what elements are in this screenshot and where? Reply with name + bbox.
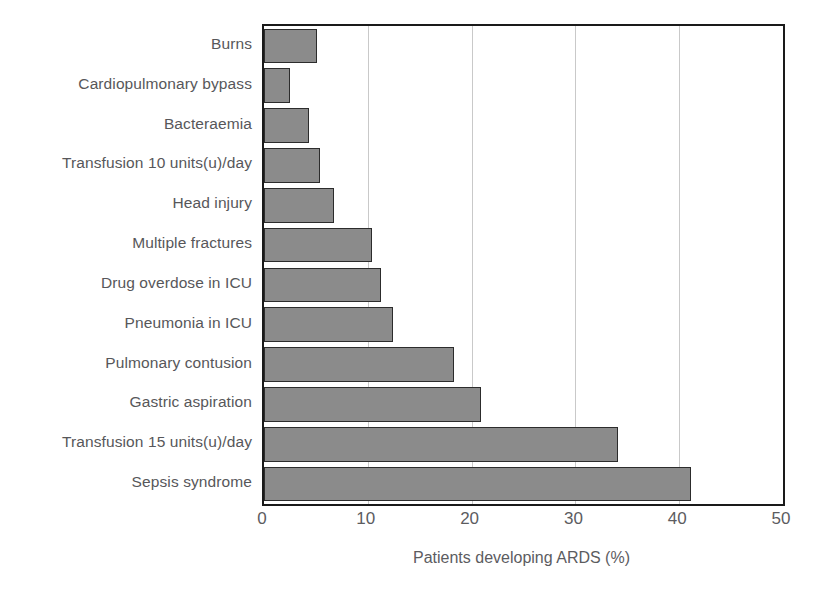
category-axis-labels: BurnsCardiopulmonary bypassBacteraemiaTr… — [0, 24, 252, 502]
bar-row — [264, 467, 783, 502]
category-label: Pneumonia in ICU — [0, 315, 252, 331]
bar — [264, 108, 309, 143]
bar — [264, 68, 290, 103]
bar — [264, 268, 381, 303]
bar — [264, 228, 372, 263]
x-tick-label-40: 40 — [668, 510, 687, 527]
bar-row — [264, 347, 783, 382]
bar — [264, 347, 454, 382]
bars-layer — [264, 26, 783, 504]
x-tick-label-0: 0 — [257, 510, 266, 527]
bar-row — [264, 188, 783, 223]
category-label: Cardiopulmonary bypass — [0, 76, 252, 92]
bar — [264, 427, 618, 462]
category-label: Burns — [0, 36, 252, 52]
x-axis-tick-labels: 01020304050 — [262, 502, 781, 542]
bar — [264, 188, 334, 223]
category-label: Transfusion 10 units(u)/day — [0, 155, 252, 171]
bar — [264, 29, 317, 64]
bar-row — [264, 268, 783, 303]
category-label: Drug overdose in ICU — [0, 275, 252, 291]
category-label: Multiple fractures — [0, 235, 252, 251]
bar — [264, 148, 320, 183]
bar-row — [264, 307, 783, 342]
bar — [264, 387, 481, 422]
bar-row — [264, 228, 783, 263]
category-label: Pulmonary contusion — [0, 355, 252, 371]
category-label: Sepsis syndrome — [0, 474, 252, 490]
category-label: Head injury — [0, 195, 252, 211]
bar-row — [264, 427, 783, 462]
bar-chart: BurnsCardiopulmonary bypassBacteraemiaTr… — [0, 0, 818, 598]
x-axis-title: Patients developing ARDS (%) — [262, 550, 781, 566]
x-tick-label-30: 30 — [564, 510, 583, 527]
bar-row — [264, 148, 783, 183]
category-label: Transfusion 15 units(u)/day — [0, 434, 252, 450]
bar-row — [264, 68, 783, 103]
x-tick-label-20: 20 — [460, 510, 479, 527]
bar-row — [264, 29, 783, 64]
category-label: Gastric aspiration — [0, 394, 252, 410]
category-label: Bacteraemia — [0, 116, 252, 132]
bar — [264, 307, 393, 342]
plot-area — [262, 24, 785, 506]
bar-row — [264, 108, 783, 143]
x-tick-label-10: 10 — [356, 510, 375, 527]
bar — [264, 467, 691, 502]
x-tick-label-50: 50 — [772, 510, 791, 527]
bar-row — [264, 387, 783, 422]
